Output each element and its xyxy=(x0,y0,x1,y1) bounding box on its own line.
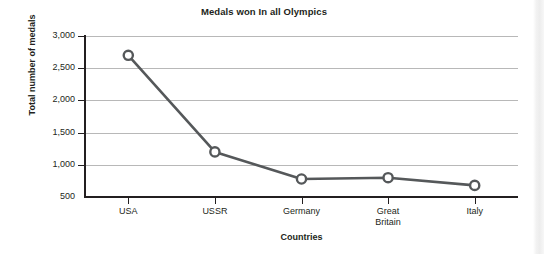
gridline xyxy=(85,165,518,166)
page-edge-shading xyxy=(533,0,544,254)
y-axis-tick-label: 1,500 xyxy=(13,128,75,137)
y-axis-tick-label: 2,000 xyxy=(13,95,75,104)
data-point-marker xyxy=(210,147,219,156)
y-axis-tick-label: 1,000 xyxy=(13,160,75,169)
chart-title: Medals won In all Olympics xyxy=(0,6,528,17)
y-axis-line xyxy=(84,35,86,198)
gridline xyxy=(85,68,518,69)
x-axis-tick-label: USSR xyxy=(170,206,260,217)
x-axis-tick xyxy=(475,198,476,204)
y-axis-title: Total number of medals xyxy=(27,5,37,125)
series-markers xyxy=(124,51,480,190)
x-axis-tick-label: Italy xyxy=(430,206,520,217)
gridline xyxy=(85,36,518,37)
x-axis-tick-label: Germany xyxy=(257,206,347,217)
x-axis-tick-label: GreatBritain xyxy=(343,206,433,228)
data-point-marker xyxy=(124,51,133,60)
series-polyline xyxy=(128,55,474,185)
x-axis-title: Countries xyxy=(85,232,518,242)
gridline xyxy=(85,100,518,101)
chart-screenshot: Medals won In all Olympics 3,0002,5002,0… xyxy=(0,0,544,254)
data-point-marker xyxy=(470,181,479,190)
y-axis-tick-label: 3,000 xyxy=(13,31,75,40)
y-axis-tick-label: 500 xyxy=(13,192,75,201)
y-axis-tick-label: 2,500 xyxy=(13,63,75,72)
data-point-marker xyxy=(384,173,393,182)
gridline xyxy=(85,133,518,134)
x-axis-tick xyxy=(302,198,303,204)
x-axis-tick xyxy=(388,198,389,204)
data-point-marker xyxy=(297,174,306,183)
x-axis-tick-label: USA xyxy=(83,206,173,217)
x-axis-tick xyxy=(128,198,129,204)
x-axis-tick xyxy=(215,198,216,204)
